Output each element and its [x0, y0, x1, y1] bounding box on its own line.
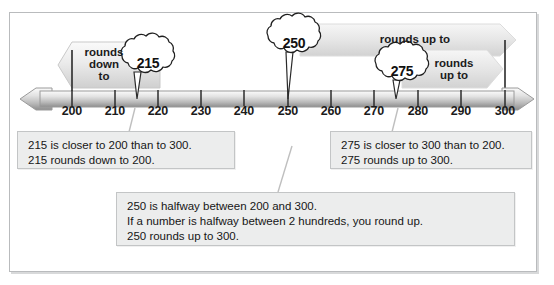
banner-label-rounds-up-to-275: rounds up to — [424, 57, 484, 81]
burst-value-215: 215 — [124, 55, 172, 71]
tick-label-230: 230 — [181, 104, 221, 118]
burst-value-275: 275 — [378, 63, 426, 79]
tick-label-260: 260 — [311, 104, 351, 118]
tick-label-300: 300 — [485, 104, 525, 118]
tick-label-240: 240 — [224, 104, 264, 118]
note-275-line-2: 275 rounds up to 300. — [341, 153, 523, 168]
note-250-line-2: If a number is halfway between 2 hundred… — [127, 214, 506, 229]
banner-label-rounds-up-to-250: rounds up to — [345, 33, 485, 45]
note-215-line-1: 215 is closer to 200 than to 300. — [28, 138, 226, 153]
tick-label-270: 270 — [354, 104, 394, 118]
note-250-line-1: 250 is halfway between 200 and 300. — [127, 199, 506, 214]
tick-label-280: 280 — [398, 104, 438, 118]
note-275-line-1: 275 is closer to 300 than to 200. — [341, 138, 523, 153]
note-215-line-2: 215 rounds down to 200. — [28, 153, 226, 168]
diagram-page: 200 210 220 230 240 250 260 270 280 290 … — [0, 0, 554, 285]
tick-label-290: 290 — [441, 104, 481, 118]
note-box-215: 215 is closer to 200 than to 300. 215 ro… — [17, 131, 235, 169]
tick-label-250: 250 — [268, 104, 308, 118]
note-box-275: 275 is closer to 300 than to 200. 275 ro… — [330, 131, 532, 169]
tick-label-210: 210 — [95, 104, 135, 118]
tick-label-220: 220 — [138, 104, 178, 118]
note-250-line-3: 250 rounds up to 300. — [127, 229, 506, 244]
burst-value-250: 250 — [270, 35, 318, 51]
leader-line-250 — [278, 146, 292, 192]
tick-label-200: 200 — [52, 104, 92, 118]
note-box-250: 250 is halfway between 200 and 300. If a… — [116, 192, 515, 246]
